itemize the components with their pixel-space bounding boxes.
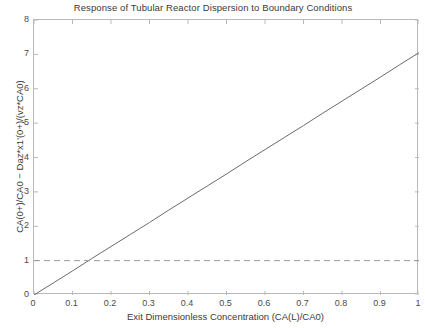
y-tick-label: 8 bbox=[3, 14, 29, 24]
x-tick-label: 0.7 bbox=[296, 298, 309, 308]
y-tick-label: 3 bbox=[3, 186, 29, 196]
x-tick-label: 0.3 bbox=[142, 298, 155, 308]
x-tick-label: 0.6 bbox=[258, 298, 271, 308]
x-tick-label: 0.4 bbox=[181, 298, 194, 308]
y-tick-label: 0 bbox=[3, 289, 29, 299]
plot-svg bbox=[34, 20, 419, 295]
axis-tick-marks bbox=[34, 20, 419, 295]
x-tick-label: 1 bbox=[415, 298, 420, 308]
y-tick-label: 2 bbox=[3, 220, 29, 230]
data-series-group bbox=[34, 53, 419, 295]
x-axis-label: Exit Dimensionless Concentration (CA(L)/… bbox=[33, 311, 418, 322]
plot-area bbox=[33, 19, 418, 294]
y-tick-label: 5 bbox=[3, 117, 29, 127]
x-axis-tick-labels: 00.10.20.30.40.50.60.70.80.91 bbox=[33, 298, 418, 312]
y-tick-label: 7 bbox=[3, 48, 29, 58]
x-tick-label: 0.8 bbox=[335, 298, 348, 308]
x-tick-label: 0.9 bbox=[373, 298, 386, 308]
y-axis-tick-labels: 012345678 bbox=[0, 19, 29, 294]
x-tick-label: 0.2 bbox=[104, 298, 117, 308]
y-tick-label: 6 bbox=[3, 83, 29, 93]
chart-title: Response of Tubular Reactor Dispersion t… bbox=[0, 2, 426, 13]
y-tick-label: 4 bbox=[3, 152, 29, 162]
x-tick-label: 0.5 bbox=[219, 298, 232, 308]
series-inlet-boundary-response bbox=[34, 53, 419, 295]
y-tick-label: 1 bbox=[3, 255, 29, 265]
x-tick-label: 0 bbox=[30, 298, 35, 308]
x-tick-label: 0.1 bbox=[65, 298, 78, 308]
figure-canvas: Response of Tubular Reactor Dispersion t… bbox=[0, 0, 426, 328]
